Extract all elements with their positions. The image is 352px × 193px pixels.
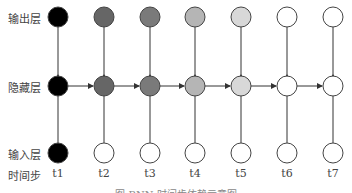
input-node-t5 [231,143,251,163]
time-step-t7: t7 [327,167,338,180]
input-node-t4 [185,143,205,163]
time-step-t2: t2 [98,167,109,180]
output-node-t4 [185,7,205,27]
time-step-t1: t1 [52,167,63,180]
input-node-t7 [323,143,343,163]
time-step-t5: t5 [235,167,246,180]
output-node-t7 [323,7,343,27]
figure-caption: 图 RNN 时间步依赖示意图 [0,186,352,193]
output-node-t5 [231,7,251,27]
hidden-node-t1 [48,76,68,96]
input-node-t6 [277,143,297,163]
output-node-t1 [48,7,68,27]
hidden-node-t4 [185,76,205,96]
input-node-t3 [140,143,160,163]
rnn-unrolled-diagram [0,0,352,193]
output-node-t2 [94,7,114,27]
input-node-t2 [94,143,114,163]
time-step-t6: t6 [281,167,292,180]
hidden-node-t7 [323,76,343,96]
time-step-t3: t3 [144,167,155,180]
output-node-t3 [140,7,160,27]
hidden-node-t5 [231,76,251,96]
output-node-t6 [277,7,297,27]
time-step-t4: t4 [189,167,200,180]
hidden-node-t6 [277,76,297,96]
hidden-node-t3 [140,76,160,96]
input-node-t1 [48,143,68,163]
hidden-node-t2 [94,76,114,96]
